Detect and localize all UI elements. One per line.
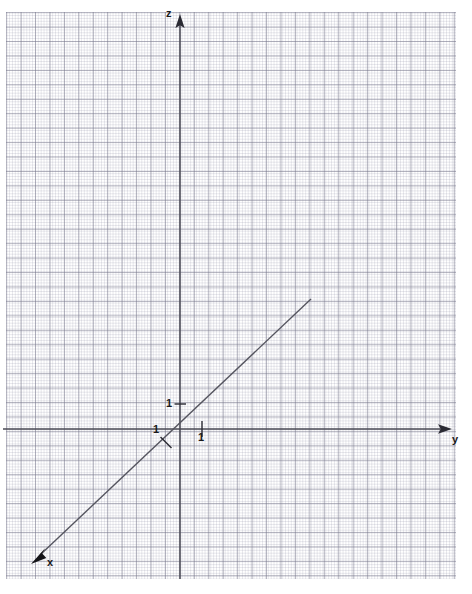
x-axis-label: x [47,557,53,568]
y-axis-label: y [452,434,458,445]
axes-overlay [0,0,472,594]
figure-canvas: z y x 1 1 1 [0,0,472,594]
x-axis-tick-label: 1 [153,424,159,435]
x-axis-tick [161,437,172,448]
y-axis-tick-label: 1 [198,432,204,443]
z-axis-label: z [166,8,172,19]
x-axis-line [40,299,311,555]
z-axis-tick-label: 1 [166,398,172,409]
